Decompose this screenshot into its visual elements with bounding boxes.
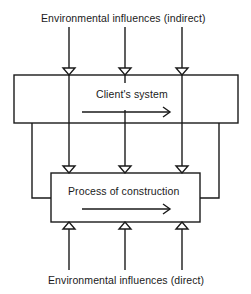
- left-connector: [32, 123, 51, 198]
- client-system-box: [14, 75, 238, 123]
- right-connector: [200, 123, 219, 198]
- triangle-down-icon: [176, 68, 188, 75]
- triangle-down-icon: [119, 68, 131, 75]
- triangle-up-icon: [63, 222, 75, 229]
- triangle-down-icon: [119, 166, 131, 173]
- construction-process-box: [51, 173, 200, 222]
- triangle-up-icon: [119, 222, 131, 229]
- diagram-canvas: [0, 0, 251, 294]
- triangle-down-icon: [63, 68, 75, 75]
- triangle-up-icon: [176, 222, 188, 229]
- triangle-down-icon: [176, 166, 188, 173]
- triangle-down-icon: [63, 166, 75, 173]
